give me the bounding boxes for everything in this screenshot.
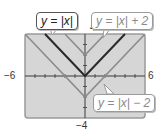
x-max-label: 6 [148, 71, 154, 81]
callout-y-abs-x-minus-2: y = |x| − 2 [93, 94, 155, 112]
x-min-label: −6 [4, 71, 15, 81]
callout-y-abs-x: y = |x| [36, 12, 78, 30]
y-min-label: −4 [76, 121, 87, 131]
callout-y-abs-x-plus-2: y = |x| + 2 [91, 12, 153, 30]
